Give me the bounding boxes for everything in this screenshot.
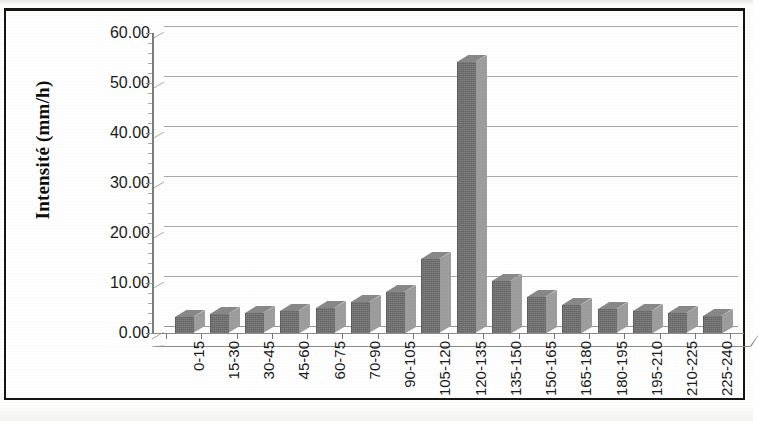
y-axis-tick-label: 50.00: [88, 74, 150, 92]
x-axis-tick: [237, 333, 238, 339]
x-axis-tick: [166, 333, 167, 339]
x-axis-tick-label: 105-120: [436, 341, 453, 396]
x-axis-tick-label: 45-60: [295, 341, 312, 379]
bar-front-face: [386, 292, 405, 334]
x-axis-tick-labels: 0-1515-3030-4545-6060-7570-9090-105105-1…: [152, 333, 752, 413]
x-axis-tick: [448, 333, 449, 339]
bar: [316, 33, 334, 333]
x-axis-tick: [624, 333, 625, 339]
x-axis-tick: [730, 333, 731, 339]
bar: [457, 33, 475, 333]
bar-side-face: [404, 285, 416, 333]
x-axis-tick: [519, 333, 520, 339]
bar-front-face: [668, 313, 687, 333]
gridline-depth-connector: [152, 26, 164, 33]
bar-front-face: [633, 311, 652, 334]
bar-side-face: [475, 55, 487, 333]
bar: [210, 33, 228, 333]
x-axis-tick-label: 165-180: [577, 341, 594, 396]
bar-front-face: [457, 62, 476, 333]
x-axis-tick: [695, 333, 696, 339]
x-axis-tick-label: 195-210: [648, 341, 665, 396]
bar: [175, 33, 193, 333]
chart-frame: Intensité (mm/h) 60.0050.0040.0030.0020.…: [4, 8, 745, 400]
bar: [245, 33, 263, 333]
bar-front-face: [316, 308, 335, 333]
x-axis-tick: [483, 333, 484, 339]
bar-series: [152, 33, 738, 333]
y-axis-tick-labels: 60.0050.0040.0030.0020.0010.000.00: [26, 11, 150, 403]
bar-front-face: [598, 309, 617, 333]
x-axis-tick-label: 60-75: [331, 341, 348, 379]
scan-edge-top: [0, 0, 753, 6]
bar-front-face: [245, 313, 264, 333]
bar-front-face: [175, 317, 194, 333]
y-axis-tick-label: 40.00: [88, 124, 150, 142]
x-axis-tick: [660, 333, 661, 339]
x-axis-tick-label: 120-135: [472, 341, 489, 396]
x-axis-tick-label: 180-195: [613, 341, 630, 396]
y-axis-tick-label: 10.00: [88, 274, 150, 292]
x-axis-tick-label: 70-90: [366, 341, 383, 379]
x-axis-tick: [307, 333, 308, 339]
bar: [703, 33, 721, 333]
bar: [386, 33, 404, 333]
bar-front-face: [527, 297, 546, 334]
bar: [633, 33, 651, 333]
x-axis-tick: [554, 333, 555, 339]
x-axis-tick-label: 30-45: [260, 341, 277, 379]
y-axis-tick-label: 20.00: [88, 224, 150, 242]
x-axis-tick-label: 225-240: [718, 341, 735, 396]
x-axis-tick-label: 150-165: [542, 341, 559, 396]
bar-front-face: [421, 259, 440, 333]
scan-edge-bottom: [0, 403, 753, 421]
bar: [527, 33, 545, 333]
bar-side-face: [545, 290, 557, 333]
bar-front-face: [492, 281, 511, 334]
bar-front-face: [280, 311, 299, 334]
y-axis-tick-label: 0.00: [88, 324, 150, 342]
bar: [351, 33, 369, 333]
y-axis-tick-label: 30.00: [88, 174, 150, 192]
bar: [492, 33, 510, 333]
bar: [562, 33, 580, 333]
x-axis-tick-label: 90-105: [401, 341, 418, 388]
bar: [598, 33, 616, 333]
bar-chart: Intensité (mm/h) 60.0050.0040.0030.0020.…: [6, 11, 747, 403]
x-axis-tick: [413, 333, 414, 339]
x-axis-tick-label: 0-15: [190, 341, 207, 371]
bar: [280, 33, 298, 333]
x-axis-tick: [589, 333, 590, 339]
y-axis-tick-label: 60.00: [88, 24, 150, 42]
x-axis-tick: [201, 333, 202, 339]
bar-side-face: [439, 252, 451, 333]
bar-side-face: [510, 274, 522, 333]
bar-front-face: [562, 305, 581, 334]
bar-front-face: [703, 316, 722, 334]
bar-front-face: [210, 314, 229, 333]
x-axis-tick: [342, 333, 343, 339]
x-axis-tick-label: 135-150: [507, 341, 524, 396]
plot-area: [152, 33, 738, 333]
x-axis-tick-label: 15-30: [225, 341, 242, 379]
bar-front-face: [351, 302, 370, 333]
bar: [668, 33, 686, 333]
gridline: [164, 26, 738, 27]
bar: [421, 33, 439, 333]
x-axis-tick-label: 210-225: [683, 341, 700, 396]
x-axis-tick: [378, 333, 379, 339]
x-axis-tick: [272, 333, 273, 339]
